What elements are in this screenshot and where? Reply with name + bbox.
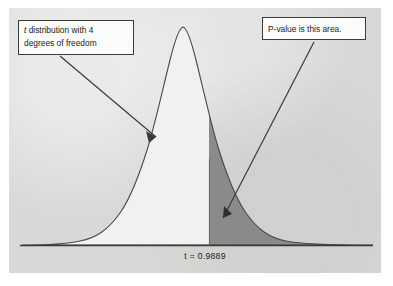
density-fill-left bbox=[22, 27, 373, 245]
test-statistic-label: t = 0.9889 bbox=[150, 251, 260, 261]
t-distribution-figure: t distribution with 4 degrees of freedom… bbox=[0, 0, 393, 286]
callout-distribution: t distribution with 4 degrees of freedom bbox=[18, 20, 134, 55]
distribution-callout-leader-line bbox=[60, 56, 156, 137]
callout-distribution-text: distribution with 4 degrees of freedom bbox=[24, 25, 97, 48]
callout-pvalue: P-value is this area. bbox=[262, 17, 366, 40]
pvalue-callout-leader-line bbox=[223, 42, 314, 218]
